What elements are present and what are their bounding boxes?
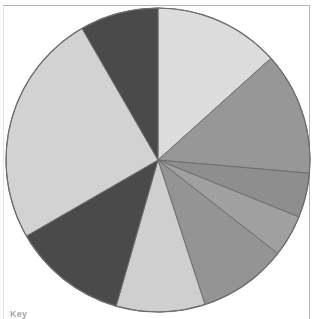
pie-chart-figure: Key [0,0,320,319]
key-label: Key [10,309,27,319]
pie-chart [0,0,320,319]
pie-slice-group [6,8,310,312]
